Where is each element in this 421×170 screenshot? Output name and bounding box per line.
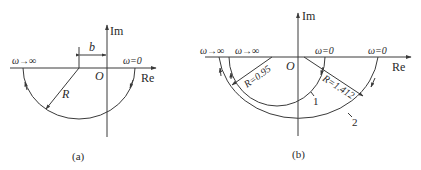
caption-a: (a): [72, 150, 85, 163]
omega-zero-label-2: ω=0: [368, 45, 387, 56]
omega-zero-label-1: ω=0: [315, 45, 334, 56]
omega-inf-label: ω→∞: [12, 55, 36, 66]
figure-canvas: Im Re O b R ω→∞ ω=0 (a) Im Re O: [0, 0, 421, 170]
radius-label-1: R=0.95: [241, 63, 273, 90]
caption-b: (b): [292, 148, 305, 161]
omega-inf-label-1: ω→∞: [235, 45, 259, 56]
imag-axis-label: Im: [110, 24, 124, 38]
omega-zero-label: ω=0: [123, 55, 142, 66]
b-label: b: [89, 40, 95, 54]
origin-label: O: [286, 59, 295, 73]
panel-a: Im Re O b R ω→∞ ω=0 (a): [10, 24, 156, 163]
real-axis-label: Re: [141, 71, 154, 85]
imag-axis-label: Im: [302, 9, 316, 23]
omega-inf-label-2: ω→∞: [200, 45, 224, 56]
radius-label: R: [61, 87, 70, 101]
curve-1-label: 1: [313, 95, 319, 107]
panel-b: Im Re O R=0.95 R=1.412 1 2 ω→∞ ω→∞ ω=0 ω…: [200, 9, 411, 161]
radius-label-2: R=1.412: [320, 72, 356, 101]
curve-2-arrow-right: [371, 78, 375, 87]
nyquist-curve: [23, 68, 135, 119]
curve-2-label: 2: [352, 116, 358, 128]
real-axis-label: Re: [392, 60, 405, 74]
curve-2-arrow-left: [220, 68, 221, 76]
origin-label: O: [95, 69, 104, 83]
